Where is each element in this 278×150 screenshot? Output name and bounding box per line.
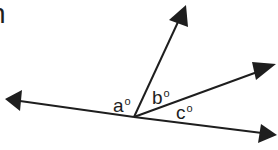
arrowhead-up-icon [169, 5, 188, 27]
arrowhead-upper-right-icon [252, 62, 276, 80]
angle-b-letter: b [152, 87, 163, 108]
degree-symbol: o [125, 95, 131, 107]
degree-symbol: o [187, 102, 193, 114]
angle-c-letter: c [176, 102, 186, 123]
ray-lower-right [134, 117, 262, 133]
angle-label-c: co [176, 103, 193, 122]
arrowhead-left-icon [5, 90, 22, 111]
angle-diagram: n ao bo co [0, 0, 278, 150]
angle-label-a: ao [113, 96, 131, 115]
arrowhead-lower-right-icon [258, 124, 277, 143]
angle-a-letter: a [113, 95, 124, 116]
angle-label-b: bo [152, 88, 170, 107]
degree-symbol: o [164, 87, 170, 99]
rays-drawing [0, 0, 278, 150]
